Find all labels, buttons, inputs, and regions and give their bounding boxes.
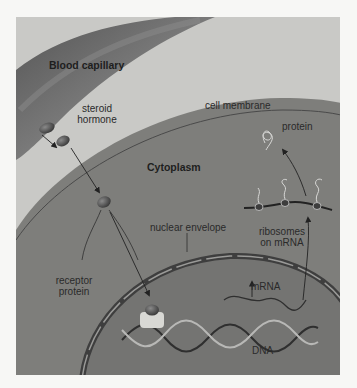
label-ribosomes-2: on mRNA: [256, 237, 308, 248]
label-blood-capillary: Blood capillary: [49, 60, 124, 71]
label-receptor-protein-2: protein: [48, 286, 100, 297]
label-steroid-hormone-2: hormone: [72, 114, 122, 125]
hormone-bound: [145, 305, 159, 316]
label-mrna: mRNA: [251, 281, 280, 292]
label-nuclear-envelope: nuclear envelope: [150, 222, 226, 233]
label-receptor-protein-1: receptor: [48, 275, 100, 286]
label-dna: DNA: [252, 345, 273, 356]
label-steroid-hormone-1: steroid: [72, 103, 122, 114]
label-cytoplasm: Cytoplasm: [147, 162, 201, 173]
label-protein: protein: [282, 121, 313, 132]
label-ribosomes-1: ribosomes: [256, 226, 308, 237]
diagram: Blood capillary steroid hormone cell mem…: [0, 0, 357, 388]
label-cell-membrane: cell membrane: [205, 100, 271, 111]
